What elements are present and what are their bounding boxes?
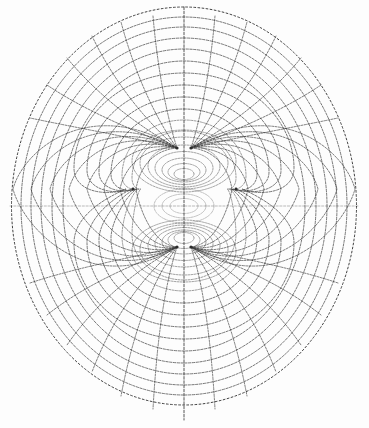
pole-upper-right-marker xyxy=(189,146,192,149)
field-line xyxy=(191,22,247,148)
pole-lower-right-marker xyxy=(189,245,192,248)
field-line xyxy=(69,141,177,253)
singular-points xyxy=(132,146,238,248)
field-line xyxy=(191,16,215,148)
field-lines-left xyxy=(13,126,177,266)
field-lines xyxy=(10,7,358,420)
field-line xyxy=(153,16,177,148)
field-lines-right xyxy=(191,126,355,266)
saddle-right-marker xyxy=(235,188,238,191)
field-line xyxy=(191,126,355,266)
field-line xyxy=(92,36,177,148)
pole-lower-left-marker xyxy=(175,245,178,248)
figure-root: orthogonal-field-map Two orthogonal fami… xyxy=(0,0,369,428)
field-line xyxy=(191,58,301,148)
saddle-left-marker xyxy=(132,188,135,191)
field-line xyxy=(13,126,177,266)
field-line xyxy=(191,247,215,409)
field-map-figure xyxy=(0,0,369,428)
pole-upper-left-marker xyxy=(175,146,178,149)
field-line xyxy=(191,141,299,253)
field-line xyxy=(121,22,177,148)
field-lines-upper-fan xyxy=(30,16,338,148)
